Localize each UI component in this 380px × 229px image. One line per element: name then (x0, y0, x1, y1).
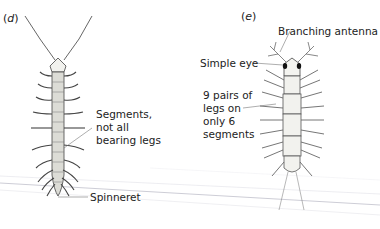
panel-label-d: (d) (3, 12, 19, 25)
label-simple-eye: Simple eye (200, 57, 258, 70)
label-spinneret: Spinneret (90, 191, 141, 204)
panel-label-e: (e) (241, 10, 256, 23)
label-branching-antenna: Branching antenna (278, 25, 378, 38)
panel-letter-d: d (7, 12, 14, 25)
label-nine-pairs-legs: 9 pairs of legs on only 6 segments (203, 89, 255, 141)
panel-letter-e: e (245, 10, 252, 23)
label-segments: Segments, not all bearing legs (96, 108, 161, 147)
